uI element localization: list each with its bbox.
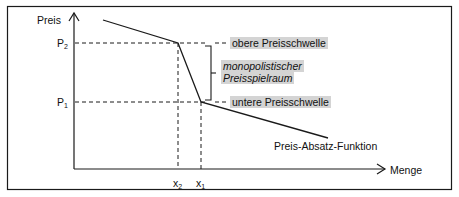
range-label-line2: Preisspielraum — [221, 72, 294, 84]
p2-label: P2 — [57, 37, 68, 53]
x1-label: x1 — [196, 177, 205, 193]
upper-threshold-label: obere Preisschwelle — [230, 37, 328, 49]
x-axis-label: Menge — [390, 164, 422, 176]
p1-label: P1 — [57, 96, 68, 112]
x2-label: x2 — [173, 177, 182, 193]
range-label-line1: monopolistischer — [221, 60, 304, 72]
range-bracket — [205, 46, 211, 100]
curve-label: Preis-Absatz-Funktion — [274, 140, 377, 152]
lower-threshold-label: untere Preisschwelle — [230, 96, 331, 108]
y-axis-label: Preis — [37, 14, 61, 26]
